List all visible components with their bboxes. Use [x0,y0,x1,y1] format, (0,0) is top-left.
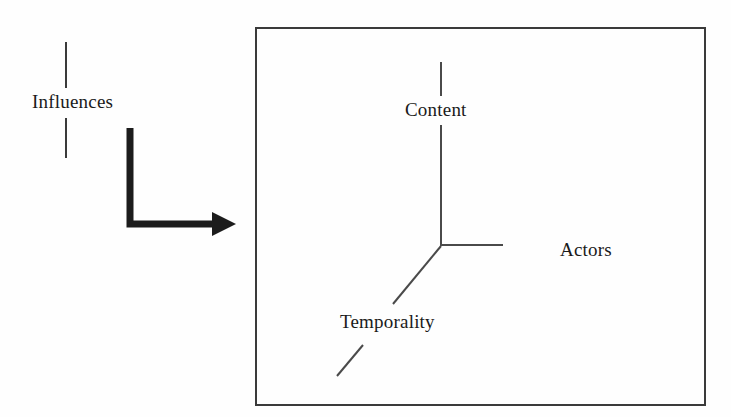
axis-temporality-lower-segment [337,345,363,376]
panel-border [256,28,705,405]
diagram-vector-layer [0,0,731,417]
influences-label: Influences [32,92,113,112]
axis-label-temporality: Temporality [340,312,435,332]
diagram-figure: Influences Content Actors Temporality [0,0,731,417]
axis-label-content: Content [405,100,467,120]
axis-label-actors: Actors [560,240,612,260]
axis-temporality-upper-segment [393,246,441,304]
elbow-arrow-right-icon [130,128,236,236]
